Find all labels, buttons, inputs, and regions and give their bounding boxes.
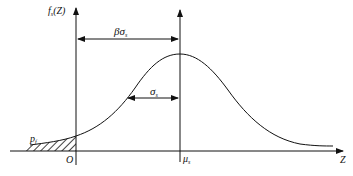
y-axis-label: fs(Z) bbox=[48, 6, 65, 17]
failure-probability-label: pf bbox=[30, 134, 37, 145]
reliability-diagram bbox=[0, 0, 353, 176]
x-axis-label: Z bbox=[340, 155, 346, 165]
origin-label: O bbox=[66, 155, 73, 165]
pdf-curve bbox=[30, 54, 333, 146]
sigma-label: σs bbox=[150, 86, 158, 98]
beta-sigma-label: βσs bbox=[114, 26, 127, 38]
mean-label: μs bbox=[183, 154, 190, 165]
